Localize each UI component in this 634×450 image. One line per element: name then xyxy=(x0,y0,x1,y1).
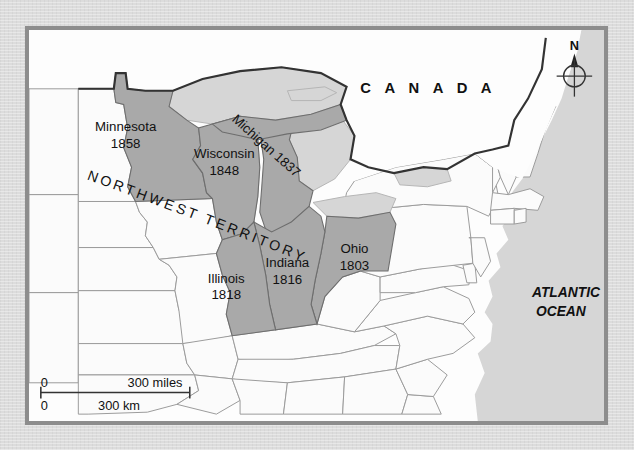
state-plains-w2 xyxy=(29,195,78,293)
label-state-illinois-name: Illinois xyxy=(208,271,245,286)
scale-miles-value: 300 miles xyxy=(128,375,183,390)
compass-north-label: N xyxy=(570,38,579,53)
label-state-ohio-year: 1803 xyxy=(340,258,370,273)
state-georgia xyxy=(343,369,408,414)
label-state-minnesota-year: 1858 xyxy=(111,136,141,151)
scale-km-zero: 0 xyxy=(41,398,48,413)
label-state-minnesota-name: Minnesota xyxy=(95,119,157,134)
state-rhode-island xyxy=(514,208,526,224)
scale-miles-zero: 0 xyxy=(41,375,48,390)
state-alabama xyxy=(283,377,344,414)
label-atlantic-ocean-line2: OCEAN xyxy=(536,304,587,319)
map-canvas[interactable]: C A N A D A ATLANTIC OCEAN NORTHWEST TER… xyxy=(29,30,604,421)
label-atlantic-ocean-line1: ATLANTIC xyxy=(531,285,601,300)
label-state-indiana-name: Indiana xyxy=(266,255,310,270)
state-oklahoma xyxy=(78,344,194,375)
state-plains-w3 xyxy=(29,293,78,383)
label-state-indiana-year: 1816 xyxy=(273,272,303,287)
label-state-illinois-year: 1818 xyxy=(211,288,241,303)
scale-km-value: 300 km xyxy=(98,398,140,413)
state-kansas xyxy=(78,291,186,344)
map-frame: C A N A D A ATLANTIC OCEAN NORTHWEST TER… xyxy=(25,26,608,425)
label-canada: C A N A D A xyxy=(360,80,496,96)
label-state-ohio-name: Ohio xyxy=(340,241,368,256)
state-mississippi xyxy=(232,379,287,414)
state-plains-nw xyxy=(29,89,78,195)
state-connecticut xyxy=(491,208,515,224)
label-state-wisconsin-year: 1848 xyxy=(209,163,239,178)
label-state-wisconsin-name: Wisconsin xyxy=(194,146,255,161)
